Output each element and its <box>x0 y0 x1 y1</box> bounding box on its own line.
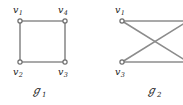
graph-2-caption-symbol: ℊ <box>146 84 157 97</box>
vertex-label-g1-v3-sub: 3 <box>64 71 68 79</box>
graph-2-edges <box>122 21 183 62</box>
graph-1-edges <box>20 21 65 62</box>
graph-1-caption: ℊ1 <box>31 85 46 96</box>
graph-1-caption-sub: 1 <box>42 91 46 99</box>
graph-1-caption-symbol: ℊ <box>31 84 42 97</box>
vertex-label-g1-v1-sub: 1 <box>19 9 23 17</box>
vertex-label-g1-v4-sub: 4 <box>64 9 68 17</box>
vertex-label-g2-v3-sub: 3 <box>121 71 125 79</box>
graph-2-drawing <box>92 0 183 105</box>
vertex-label-g1-v2-sub: 2 <box>19 71 23 79</box>
vertex-label-g1-v4-base: v <box>58 4 63 15</box>
vertex-label-g2-v1-base: v <box>115 4 120 15</box>
vertex-g2-v1 <box>120 19 124 23</box>
vertex-label-g1-v1: v1 <box>13 5 23 15</box>
vertex-v1 <box>18 19 22 23</box>
vertex-label-g1-v4: v4 <box>58 5 68 15</box>
vertex-v2 <box>18 60 22 64</box>
vertex-label-g1-v2: v2 <box>13 67 23 77</box>
graph-panel-2: v1 v3 ℊ2 <box>92 0 183 105</box>
graph-panel-1: v1 v4 v2 v3 ℊ1 <box>0 0 92 105</box>
vertex-v3 <box>63 60 67 64</box>
vertex-label-g2-v1-sub: 1 <box>121 9 125 17</box>
graph-1-vertices <box>18 19 67 64</box>
vertex-label-g2-v3-base: v <box>115 66 120 77</box>
graph-2-caption-sub: 2 <box>157 91 161 99</box>
graph-2-caption: ℊ2 <box>146 85 161 96</box>
vertex-g2-v3 <box>120 60 124 64</box>
vertex-label-g2-v1: v1 <box>115 5 125 15</box>
vertex-label-g1-v3-base: v <box>58 66 63 77</box>
vertex-label-g1-v3: v3 <box>58 67 68 77</box>
vertex-label-g2-v3: v3 <box>115 67 125 77</box>
graph-2-vertices <box>120 19 124 64</box>
graph-figure: v1 v4 v2 v3 ℊ1 <box>0 0 183 105</box>
vertex-v4 <box>63 19 67 23</box>
vertex-label-g1-v2-base: v <box>13 66 18 77</box>
vertex-label-g1-v1-base: v <box>13 4 18 15</box>
